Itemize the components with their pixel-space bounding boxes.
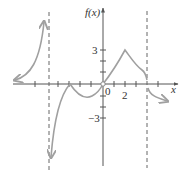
function-graph: f(x) x 0 2 3 −3 <box>0 0 184 180</box>
curve-right-of-origin <box>103 50 147 84</box>
y-tick-label-3: 3 <box>92 44 98 56</box>
curve-left-branch <box>15 22 44 80</box>
origin-label: 0 <box>105 85 111 97</box>
y-tick-label-neg3: −3 <box>88 112 100 124</box>
y-axis-label: f(x) <box>85 6 101 19</box>
x-tick-label-2: 2 <box>122 89 128 101</box>
curve-right-branch <box>148 88 167 101</box>
x-axis-label: x <box>170 83 176 95</box>
